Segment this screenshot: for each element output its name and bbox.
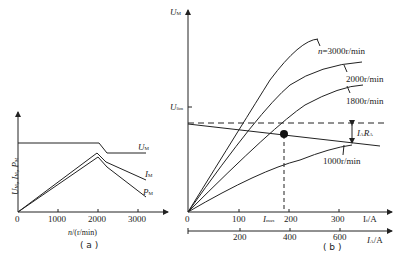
sub: max	[266, 218, 275, 223]
b-tick2-400: 400	[283, 233, 297, 242]
a-ylabel-p: , P	[10, 162, 20, 172]
b-x2-label: IA/A	[367, 236, 383, 246]
a-caption: ( a )	[80, 240, 98, 250]
a-x-label: n/(r/min)	[68, 228, 97, 237]
a-tick-3000: 3000	[128, 215, 146, 224]
b-ulim-label: Ulim	[170, 103, 183, 113]
b-tick2-200: 200	[233, 233, 247, 242]
a-tick-2000: 2000	[88, 215, 106, 224]
t: /A	[374, 235, 383, 245]
b-curve-1800	[188, 85, 363, 212]
b-tick-100: 100	[232, 215, 246, 224]
a-ylabel-i: , I	[10, 177, 20, 185]
b-label-iara: IARA	[357, 129, 373, 139]
b-label-2000: 2000r/min	[346, 75, 384, 84]
b-tick-0: 0	[185, 215, 190, 224]
a-label-im: IM	[145, 170, 152, 180]
sub: A	[369, 132, 373, 137]
a-label-um: UM	[138, 143, 149, 153]
a-label-pm: PM	[143, 188, 153, 198]
operating-point	[280, 130, 288, 138]
a-curve-um	[18, 143, 146, 153]
b-y-label: UM	[170, 8, 181, 18]
a-tick-1000: 1000	[48, 215, 66, 224]
b-curve-2000	[188, 62, 362, 212]
sub: M	[14, 184, 19, 188]
a-y-label: UM, IM, PM	[11, 135, 21, 195]
sub: lim	[177, 106, 184, 111]
b-tick2-600: 600	[333, 233, 347, 242]
b-tick-300: 300	[331, 215, 345, 224]
sub: M	[149, 191, 153, 196]
sub: M	[14, 172, 19, 176]
sub: M	[145, 146, 149, 151]
a-ylabel-u: U	[10, 189, 20, 196]
sub: M	[148, 173, 152, 178]
b-tick-200: 200	[284, 215, 298, 224]
b-imax-label: Imax	[263, 215, 275, 225]
t: /A	[368, 214, 377, 224]
b-label-1800: 1800r/min	[346, 97, 384, 106]
a-tick-0: 0	[15, 215, 20, 224]
sub: M	[14, 158, 19, 162]
b-caption: ( b )	[323, 242, 341, 252]
b-label-3000: n=3000r/min	[318, 47, 365, 56]
t: =3000r/min	[323, 46, 366, 56]
b-label-1000: 1000r/min	[323, 157, 361, 166]
sub: M	[177, 11, 181, 16]
a-curve-pm	[18, 157, 146, 212]
b-x-label: If/A	[363, 215, 377, 225]
t: /(r/min)	[72, 228, 97, 237]
